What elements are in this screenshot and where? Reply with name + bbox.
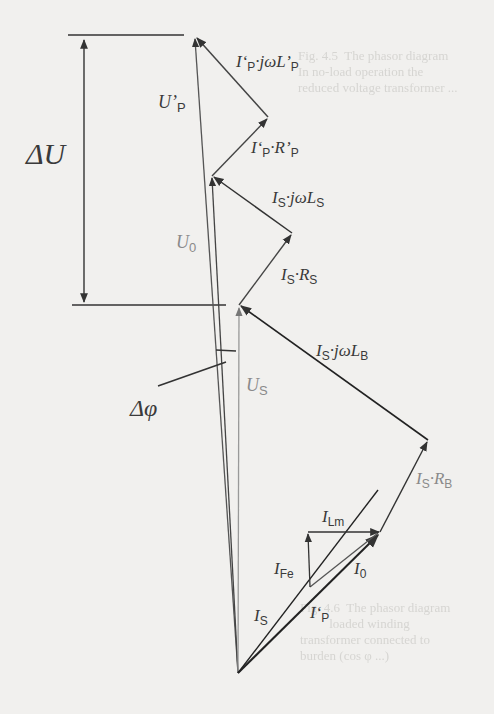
label-i-0: I0	[353, 559, 367, 581]
label-ip-rp: I‘P·R’P	[250, 138, 299, 160]
delta-phi-arc	[216, 350, 236, 351]
label-u-0: U0	[176, 232, 196, 255]
label-is-rb: IS·RB	[415, 469, 452, 491]
label-is-jwlb: IS·jωLB	[315, 341, 368, 363]
vector-i-p-prime	[238, 535, 378, 673]
vector-is-jwlb	[241, 306, 428, 440]
label-ip-jwlp: I‘P·jωL’P	[235, 52, 299, 74]
label-u-s: US	[246, 375, 268, 398]
label-delta-phi: Δφ	[129, 395, 157, 421]
vector-u-0	[212, 178, 238, 673]
label-is-rs: IS·RS	[280, 265, 317, 287]
label-i-lm: ILm	[321, 507, 344, 529]
label-is-jwls: IS·jωLS	[271, 188, 324, 210]
label-i-p-prime: I‘P	[309, 603, 329, 625]
label-delta-u: ΔU	[25, 137, 68, 170]
vector-ip-jwlp	[197, 38, 268, 117]
vector-u-p-prime	[195, 39, 238, 673]
phasor-diagram: ΔU Δφ U’P U0 US I‘P·jωL’P I‘P·R’P IS·jωL…	[0, 0, 494, 714]
vector-i-0	[310, 533, 378, 587]
label-u-p-prime: U’P	[158, 92, 186, 115]
vector-u-s	[238, 308, 239, 673]
vector-i-s	[238, 490, 378, 673]
label-i-s: IS	[253, 606, 268, 628]
delta-phi-leader	[158, 362, 226, 386]
label-i-fe: IFe	[273, 559, 294, 581]
